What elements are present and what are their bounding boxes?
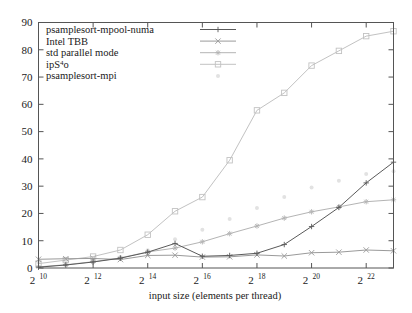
data-point-marker [228,217,232,221]
svg-text:2: 2 [84,274,90,286]
svg-text:2: 2 [303,274,309,286]
y-tick-label: 10 [22,235,34,247]
svg-text:2: 2 [248,274,254,286]
svg-text:2: 2 [30,274,36,286]
svg-text:16: 16 [203,272,211,281]
legend-label: psamplesort-mpi [46,70,117,81]
svg-text:2: 2 [139,274,145,286]
legend-label: std parallel mode [46,47,119,58]
x-axis-title: input size (elements per thread) [149,290,282,302]
svg-text:18: 18 [258,272,266,281]
data-point-marker [282,195,286,199]
line-chart: 0102030405060708090 21021221421621822022… [0,0,412,313]
data-point-marker [200,228,204,232]
data-point-marker [255,206,259,210]
y-tick-label: 50 [22,125,34,137]
y-tick-label: 0 [27,262,33,274]
legend-label: psamplesort-mpool-numa [46,24,154,35]
legend-label: Intel TBB [46,36,88,47]
y-tick-label: 30 [22,180,34,192]
legend-label: ipS4o [46,59,69,70]
y-tick-label: 40 [22,153,34,165]
data-point-marker [216,74,220,78]
data-point-marker [337,179,341,183]
svg-text:2: 2 [357,274,363,286]
svg-text:14: 14 [149,272,157,281]
data-point-marker [364,172,368,176]
svg-text:12: 12 [94,272,102,281]
y-tick-label: 70 [22,71,34,83]
y-tick-label: 60 [22,98,34,110]
y-tick-label: 80 [22,44,34,56]
svg-text:2: 2 [194,274,200,286]
svg-text:10: 10 [40,272,48,281]
chart-container: 0102030405060708090 21021221421621822022… [0,0,412,313]
svg-text:20: 20 [313,272,321,281]
y-tick-label: 90 [22,16,34,28]
y-tick-label: 20 [22,207,34,219]
data-point-marker [310,186,314,190]
svg-text:22: 22 [367,272,375,281]
